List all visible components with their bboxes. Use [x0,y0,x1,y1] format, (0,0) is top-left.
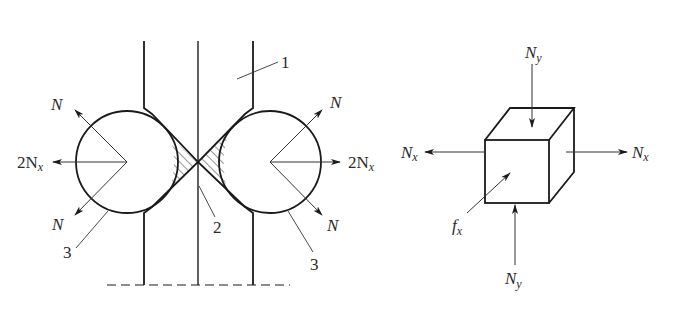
cube-front-face [485,140,549,203]
callout-3-left-label: 3 [63,243,72,262]
force-label-friction: fx [452,216,463,238]
force-label-left: Nx [400,143,418,164]
leader-line-2 [199,186,215,217]
force-label-top: Ny [524,43,542,65]
callout-1-label: 1 [281,53,290,72]
force-arrow-friction [467,173,510,213]
force-label-left-horizontal: 2Nx [17,153,44,174]
callout-3-right-label: 3 [310,255,319,274]
cube-side-face [549,108,574,203]
diagram-canvas: 1 2 3 3 N N 2Nx N N 2Nx Ny Ny [0,0,677,320]
stress-element-cube: Ny Ny Nx Nx fx [400,43,649,291]
leader-line-3-left [76,211,108,248]
force-label-left-upper: N [50,95,64,114]
force-label-bottom: Ny [504,269,522,291]
force-label-right: Nx [631,143,649,164]
roller-assembly: 1 2 3 3 N N 2Nx N N 2Nx [17,41,375,285]
callout-2-label: 2 [213,218,222,237]
cube-top-face [485,108,574,140]
force-label-left-lower: N [51,215,65,234]
force-label-right-lower: N [326,216,340,235]
leader-line-1 [237,62,278,79]
leader-line-3-right [288,211,313,252]
force-label-right-upper: N [329,93,343,112]
force-label-right-horizontal: 2Nx [348,153,375,174]
